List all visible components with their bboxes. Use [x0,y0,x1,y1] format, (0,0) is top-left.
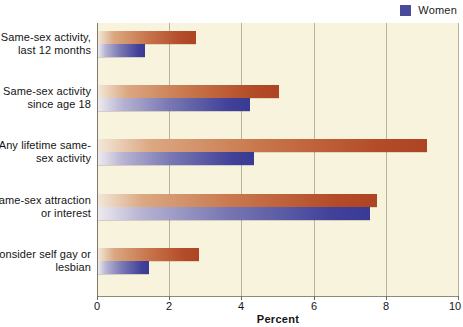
bar-chart: Same-sex activity, last 12 months Same-s… [0,0,463,327]
gridline-10 [458,23,459,296]
tick-label-0: 0 [84,300,110,312]
category-label-0-line2: last 12 months [18,44,91,56]
category-label-2-line2: sex activity [36,152,91,164]
bars-group-4 [98,248,199,274]
tick-label-8: 8 [373,300,399,312]
x-axis-spine [97,296,459,297]
category-label-1-line1: Same-sex activity [3,85,91,97]
category-label-3-line1: Same-sex attraction [0,194,91,206]
category-label-0: Same-sex activity, last 12 months [0,31,91,57]
bar-men-3 [98,194,377,207]
tick-label-6: 6 [301,300,327,312]
bar-women-1 [98,98,250,111]
bar-men-4 [98,248,199,261]
bar-women-3 [98,207,370,220]
category-label-3-line2: or interest [41,207,91,219]
bar-women-2 [98,152,254,165]
category-label-4: Consider self gay or lesbian [0,248,91,274]
bar-men-1 [98,85,279,98]
bars-group-2 [98,139,427,165]
bars-group-0 [98,31,196,57]
tick-label-10: 10 [442,300,463,312]
category-label-2: Any lifetime same- sex activity [0,139,91,165]
bars-group-3 [98,194,377,220]
tick-label-4: 4 [228,300,254,312]
category-label-2-line1: Any lifetime same- [0,139,91,151]
category-label-0-line1: Same-sex activity, [1,31,91,43]
category-label-3: Same-sex attraction or interest [0,194,91,220]
bars-group-1 [98,85,279,111]
bar-women-0 [98,44,145,57]
category-label-4-line2: lesbian [55,261,91,273]
tick-label-2: 2 [156,300,182,312]
category-label-1-line2: since age 18 [27,98,91,110]
bar-men-2 [98,139,427,152]
bar-women-4 [98,261,149,274]
x-axis-label: Percent [97,313,459,325]
category-label-4-line1: Consider self gay or [0,248,91,260]
bar-men-0 [98,31,196,44]
category-label-1: Same-sex activity since age 18 [0,85,91,111]
